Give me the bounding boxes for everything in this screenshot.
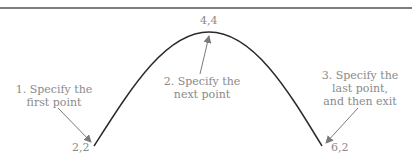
point-label-6-2: 6,2 xyxy=(331,141,349,154)
step-1-line-2: first point xyxy=(14,96,94,109)
step-3-line-1: 3. Specify the xyxy=(315,69,405,82)
step-1-annotation: 1. Specify the first point xyxy=(14,83,94,109)
step-2-line-2: next point xyxy=(157,88,247,101)
arrow-step-2 xyxy=(200,36,209,74)
step-3-line-2: last point, xyxy=(315,82,405,95)
step-1-line-1: 1. Specify the xyxy=(14,83,94,96)
step-3-annotation: 3. Specify the last point, and then exit xyxy=(315,69,405,108)
step-2-line-1: 2. Specify the xyxy=(157,75,247,88)
step-3-line-3: and then exit xyxy=(315,95,405,108)
point-label-4-4: 4,4 xyxy=(200,14,218,27)
arrow-step-1 xyxy=(58,108,91,142)
step-2-annotation: 2. Specify the next point xyxy=(157,75,247,101)
arrow-step-3 xyxy=(326,108,358,143)
point-label-2-2: 2,2 xyxy=(72,141,90,154)
